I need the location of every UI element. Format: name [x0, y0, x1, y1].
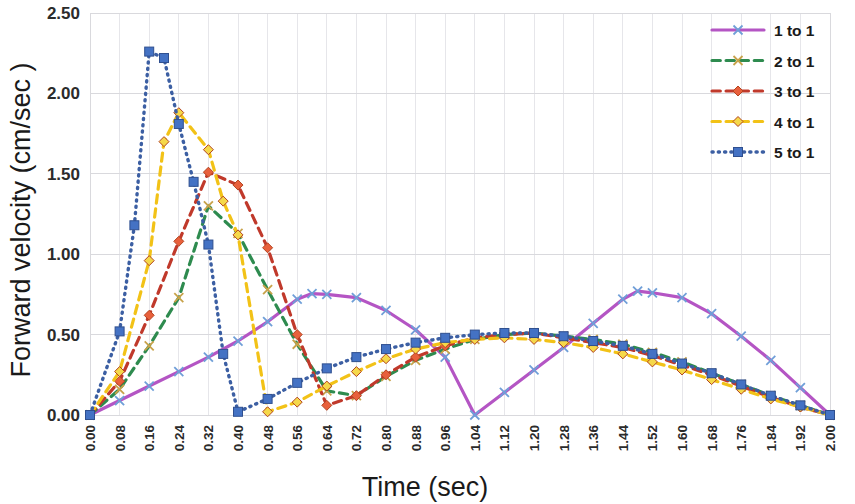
y-axis-tick-label: 2.00 — [47, 84, 80, 103]
y-axis-tick-label: 1.50 — [47, 165, 80, 184]
x-axis-tick-label: 0.64 — [320, 425, 335, 452]
data-point-marker-square — [293, 378, 302, 387]
x-axis-tick-label: 0.56 — [290, 425, 305, 452]
legend-label: 1 to 1 — [774, 22, 815, 39]
x-axis-tick-label: 2.00 — [823, 425, 838, 451]
chart-background — [0, 0, 855, 504]
data-point-marker-square — [470, 330, 479, 339]
data-point-marker-square — [826, 411, 835, 420]
x-axis-tick-label: 0.96 — [438, 425, 453, 452]
legend-label: 3 to 1 — [774, 83, 815, 100]
data-point-marker-square — [500, 328, 509, 337]
x-axis-tick-label: 1.60 — [675, 425, 690, 451]
x-axis-tick-label: 1.36 — [586, 425, 601, 452]
data-point-marker-square — [174, 119, 183, 128]
x-axis-tick-label: 0.08 — [113, 425, 128, 452]
line-chart: 0.000.501.001.502.002.50 0.000.080.160.2… — [0, 0, 855, 504]
data-point-marker-square — [411, 338, 420, 347]
x-axis-tick-label: 0.00 — [83, 425, 98, 451]
chart-container: 0.000.501.001.502.002.50 0.000.080.160.2… — [0, 0, 855, 504]
x-axis-tick-label: 0.32 — [201, 425, 216, 451]
data-point-marker-square — [352, 353, 361, 362]
x-axis-tick-label: 0.80 — [379, 425, 394, 451]
data-point-marker-square — [618, 341, 627, 350]
data-point-marker-square — [322, 364, 331, 373]
x-axis-tick-label: 0.16 — [142, 425, 157, 452]
x-axis-tick-label: 0.24 — [172, 425, 187, 452]
x-axis-tick-label: 1.84 — [764, 425, 779, 452]
x-axis-tick-label: 1.04 — [468, 425, 483, 452]
x-axis-tick-label: 0.88 — [409, 425, 424, 452]
data-point-marker-square — [737, 380, 746, 389]
data-point-marker-square — [796, 401, 805, 410]
data-point-marker-square — [707, 369, 716, 378]
x-axis-tick-label: 0.40 — [231, 425, 246, 451]
data-point-marker-square — [766, 391, 775, 400]
x-axis-tick-label: 1.68 — [705, 425, 720, 452]
data-point-marker-square — [86, 411, 95, 420]
y-axis-tick-label: 2.50 — [47, 4, 80, 23]
data-point-marker-square — [160, 54, 169, 63]
data-point-marker-square — [145, 47, 154, 56]
y-axis-tick-label: 0.50 — [47, 326, 80, 345]
data-point-marker-square — [559, 332, 568, 341]
x-axis-title: Time (sec) — [362, 472, 489, 502]
data-point-marker-square — [678, 359, 687, 368]
data-point-marker-square — [219, 349, 228, 358]
data-point-marker-square — [204, 240, 213, 249]
data-point-marker-square — [441, 333, 450, 342]
x-axis-tick-label: 1.28 — [557, 425, 572, 452]
legend-marker-sample — [734, 148, 743, 157]
data-point-marker-square — [234, 407, 243, 416]
data-point-marker-square — [382, 345, 391, 354]
data-point-marker-square — [530, 328, 539, 337]
data-point-marker-square — [263, 394, 272, 403]
y-axis-title: Forward velocity (cm/sec ) — [6, 62, 36, 377]
x-axis-tick-label: 1.52 — [645, 425, 660, 451]
data-point-marker-square — [648, 349, 657, 358]
legend-label: 4 to 1 — [774, 114, 815, 131]
data-point-marker-square — [189, 177, 198, 186]
x-axis-tick-label: 1.92 — [793, 425, 808, 451]
data-point-marker-square — [130, 221, 139, 230]
y-axis-tick-label: 1.00 — [47, 245, 80, 264]
legend-label: 5 to 1 — [774, 144, 815, 161]
data-point-marker-square — [115, 327, 124, 336]
legend-label: 2 to 1 — [774, 53, 815, 70]
x-axis-tick-label: 0.72 — [349, 425, 364, 451]
x-axis-tick-label: 1.76 — [734, 425, 749, 452]
x-axis-tick-label: 1.12 — [497, 425, 512, 451]
x-axis-tick-label: 1.20 — [527, 425, 542, 451]
data-point-marker-square — [589, 337, 598, 346]
x-axis-tick-label: 1.44 — [616, 425, 631, 452]
y-axis-tick-label: 0.00 — [47, 406, 80, 425]
x-axis-tick-label: 0.48 — [261, 425, 276, 452]
